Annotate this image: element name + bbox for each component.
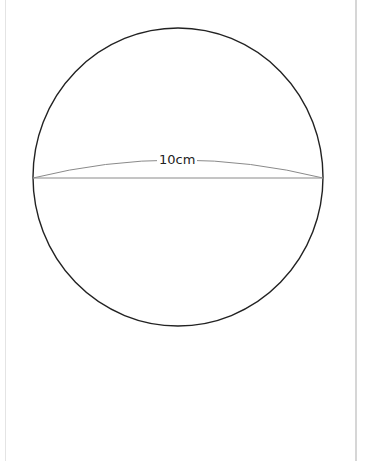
sphere-diagram — [0, 0, 365, 461]
diameter-label: 10cm — [157, 153, 197, 167]
sphere-outline — [33, 28, 323, 326]
